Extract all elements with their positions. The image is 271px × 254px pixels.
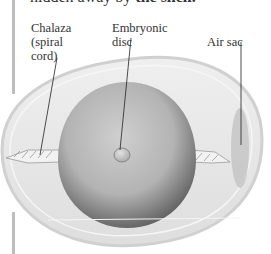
label-air-sac: Air sac [207, 35, 243, 49]
label-embryonic-line1: Embryonic [112, 21, 168, 35]
label-chalaza-line3: cord) [31, 49, 71, 63]
label-embryonic-line2: disc [112, 35, 168, 49]
label-chalaza-line2: (spiral [31, 35, 71, 49]
label-chalaza: Chalaza (spiral cord) [31, 21, 71, 63]
embryonic-disc [114, 148, 130, 162]
label-embryonic-disc: Embryonic disc [112, 21, 168, 49]
label-chalaza-line1: Chalaza [31, 21, 71, 35]
egg-diagram: hidden away by the shell. [0, 0, 271, 254]
air-sac [231, 108, 249, 188]
